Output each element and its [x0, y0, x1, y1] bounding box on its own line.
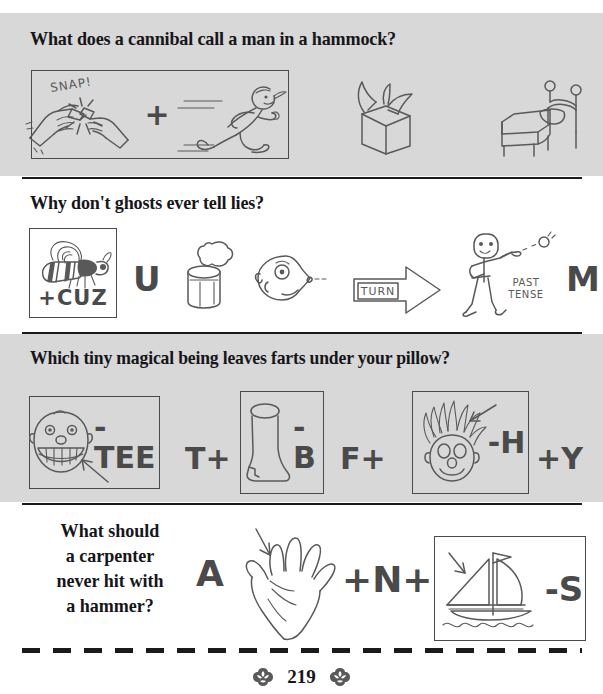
sailboat-icon — [437, 543, 545, 635]
puzzle-2-letter-u: U — [133, 262, 161, 296]
boot-icon — [241, 399, 293, 487]
hands-snapping-stick-icon: SNAP! — [24, 76, 136, 154]
comic-riddle-page: What does a cannibal call a man in a ham… — [0, 0, 603, 694]
page-number: 219 — [287, 666, 316, 688]
past-caption: PAST — [512, 277, 539, 288]
open-box-icon — [340, 76, 426, 158]
puzzle-4-question-line: a carpenter — [25, 543, 196, 568]
puzzle-2-bee-frame: +CUZ — [29, 228, 117, 318]
person-throwing-icon: PAST TENSE — [460, 230, 556, 318]
hand-icon — [238, 525, 346, 645]
puzzle-3-hair-face-frame: -H — [412, 391, 529, 494]
folio: 219 — [0, 664, 603, 690]
floral-ornament-icon — [252, 667, 274, 687]
puzzle-3-plus-y-label: +Y — [536, 444, 583, 474]
running-person-icon — [178, 75, 296, 155]
puzzle-1-question: What does a cannibal call a man in a ham… — [30, 28, 396, 50]
puzzle-4-question-line: never hit with — [25, 568, 196, 593]
puzzle-4-minus-s-label: -S — [545, 572, 584, 606]
bottom-dashed-rule — [22, 648, 582, 653]
puzzle-3-minus-h-label: -H — [488, 428, 526, 458]
grinning-face-teeth-icon — [30, 408, 92, 478]
puzzle-3-t-plus-label: T+ — [185, 444, 231, 474]
puzzle-4-sailboat-frame: -S — [434, 536, 586, 641]
puzzle-2-cuz-label: +CUZ — [38, 288, 107, 309]
puzzle-1-plus-operator: + — [144, 100, 169, 130]
puzzle-4-letter-a: A — [196, 556, 224, 592]
can-popping-icon — [178, 238, 236, 312]
snap-caption: SNAP! — [50, 74, 94, 94]
spiky-hair-face-icon — [416, 397, 488, 489]
puzzle-4-plus-n-plus-label: +N+ — [342, 562, 432, 598]
puzzle-4-question: What should a carpenter never hit with a… — [25, 518, 196, 618]
turn-arrow-icon: TURN — [352, 265, 442, 317]
puzzle-4-question-line: a hammer? — [25, 593, 196, 618]
puzzle-1-framed-group: SNAP! + — [31, 70, 289, 159]
puzzle-3-boot-frame: -B — [240, 391, 324, 494]
puzzle-2-question: Why don't ghosts ever tell lies? — [30, 192, 264, 214]
floral-ornament-icon — [329, 667, 351, 687]
puzzle-4-question-line: What should — [25, 518, 196, 543]
puzzle-3-minus-b-label: -B — [293, 413, 323, 473]
puzzle-2-letter-m: M — [566, 262, 600, 296]
bed-icon — [492, 76, 584, 160]
puzzle-3-f-plus-label: F+ — [340, 444, 386, 474]
tense-caption: TENSE — [507, 289, 544, 300]
puzzle-3-face-frame: -TEE — [29, 396, 160, 489]
turn-caption: TURN — [360, 285, 396, 298]
face-blowing-icon — [252, 252, 326, 308]
puzzle-3-question: Which tiny magical being leaves farts un… — [30, 347, 450, 369]
bee-icon — [35, 238, 111, 290]
